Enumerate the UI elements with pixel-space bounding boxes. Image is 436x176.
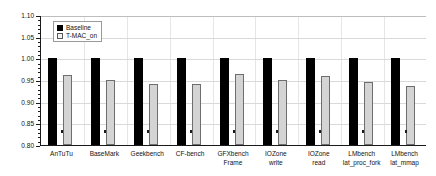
bar-tmac bbox=[278, 80, 287, 145]
legend-label-baseline: Baseline bbox=[66, 24, 91, 31]
bar-baseline bbox=[177, 58, 186, 145]
bar-baseline bbox=[220, 58, 229, 145]
bar-baseline bbox=[48, 58, 57, 145]
x-tick bbox=[61, 130, 63, 133]
bar-tmac bbox=[192, 84, 201, 145]
bar-tmac bbox=[63, 75, 72, 145]
y-tick-label: 1.10 bbox=[2, 12, 34, 19]
y-tick bbox=[36, 146, 40, 147]
bar-baseline bbox=[91, 58, 100, 145]
x-tick bbox=[104, 130, 106, 133]
x-tick bbox=[405, 130, 407, 133]
bar-group bbox=[341, 16, 384, 145]
bar-baseline bbox=[391, 58, 400, 145]
bar-group bbox=[255, 16, 298, 145]
bar-tmac bbox=[235, 74, 244, 145]
x-tick bbox=[190, 130, 192, 133]
legend-swatch-baseline-icon bbox=[57, 25, 63, 31]
bar-tmac bbox=[106, 80, 115, 145]
bar-baseline bbox=[263, 58, 272, 145]
y-tick-label: 0.80 bbox=[2, 142, 34, 149]
legend-swatch-tmac-icon bbox=[57, 33, 63, 39]
bar-tmac bbox=[406, 86, 415, 145]
bar-group bbox=[213, 16, 256, 145]
bar-group bbox=[127, 16, 170, 145]
bar-tmac bbox=[321, 76, 330, 145]
bar-group bbox=[384, 16, 427, 145]
x-tick bbox=[276, 130, 278, 133]
legend-label-tmac: T-MAC_on bbox=[66, 32, 97, 39]
bar-chart: 1.101.051.000.950.900.850.80 AnTuTuBaseM… bbox=[0, 0, 436, 176]
legend-item-baseline: Baseline bbox=[57, 24, 97, 31]
bar-group bbox=[170, 16, 213, 145]
y-tick-label: 1.05 bbox=[2, 34, 34, 41]
y-tick-label: 1.00 bbox=[2, 55, 34, 62]
legend-item-tmac: T-MAC_on bbox=[57, 32, 97, 39]
bar-tmac bbox=[364, 82, 373, 145]
bar-baseline bbox=[306, 58, 315, 145]
bar-tmac bbox=[149, 84, 158, 145]
y-tick-label: 0.85 bbox=[2, 120, 34, 127]
x-tick bbox=[319, 130, 321, 133]
bar-baseline bbox=[134, 58, 143, 145]
chart-legend: Baseline T-MAC_on bbox=[53, 21, 102, 42]
x-tick bbox=[362, 130, 364, 133]
bar-baseline bbox=[349, 58, 358, 145]
x-tick bbox=[233, 130, 235, 133]
y-tick-label: 0.95 bbox=[2, 77, 34, 84]
bar-group bbox=[298, 16, 341, 145]
x-tick bbox=[147, 130, 149, 133]
y-tick-label: 0.90 bbox=[2, 99, 34, 106]
x-tick-label: LMbench lat_mmap bbox=[377, 150, 432, 167]
